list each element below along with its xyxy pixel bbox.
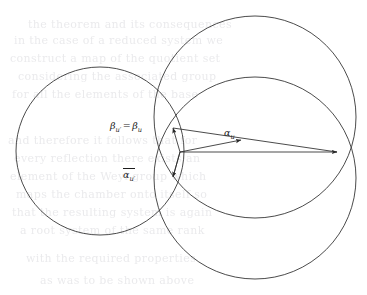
connector-lines-group	[173, 128, 337, 177]
beta-down-arrow	[173, 152, 180, 177]
math-subscript: u′	[129, 174, 135, 182]
label-beta-equality: βu′=βu	[110, 121, 142, 133]
upper-right-circle	[154, 16, 356, 218]
equals-sign: =	[121, 120, 132, 131]
math-subscript: u	[230, 133, 234, 141]
label-alpha-u-prime-overlined: αu′	[123, 168, 135, 182]
beta-up-arrow	[173, 128, 180, 152]
lower-right-circle	[154, 77, 356, 279]
figure-container: the theorem and its consequencesin the c…	[0, 0, 367, 295]
overline-bar: αu′	[123, 168, 135, 182]
label-alpha-u: αu	[224, 128, 235, 140]
arrow-vectors-group	[173, 128, 337, 177]
circle-diagram-svg	[0, 0, 367, 295]
alpha-u-arrow	[180, 140, 241, 152]
math-subscript: u	[138, 126, 142, 134]
